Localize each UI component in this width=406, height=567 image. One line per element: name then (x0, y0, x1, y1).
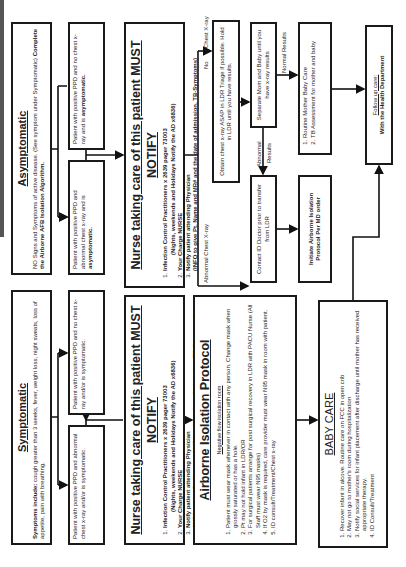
routine-care-list: Routine Mother Baby Care TB Assessment f… (302, 28, 317, 149)
airborne-item: Pt may not hold infant in LDR/OR (240, 301, 248, 528)
obtain-chest-xray-box: Obtain chest x-ray ASAP in LDR Triage if… (212, 20, 240, 183)
symptomatic-body: Symptoms include: cough greater than 3 w… (32, 296, 47, 539)
airborne-item: If O2 by mask is required, care provider… (262, 301, 270, 528)
wire-sym-split (52, 353, 67, 485)
nurse-notify-box-asymptomatic: Nurse taking care of this patient MUST N… (124, 22, 185, 288)
asym-abnormal-bold: asymptomatic. (87, 227, 93, 269)
wire-asym-split (52, 86, 67, 217)
routine-care-box: Routine Mother Baby Care TB Assessment f… (298, 22, 332, 155)
sym-abnormal-box: Patient with positive PPD and abnormal c… (68, 425, 105, 545)
baby-care-title: BABY CARE (323, 306, 337, 542)
symptomatic-box: Symptomatic Symptoms include: cough grea… (11, 290, 52, 545)
baby-care-list: Recover infant in alcove. Routine care o… (339, 306, 377, 542)
nurse-item-text: Notify patient attending Physician (185, 174, 191, 271)
asymptomatic-body: NO Signs and Symptoms of active disease.… (32, 28, 47, 269)
nurse-item-note: (Nights, weekends and Holidays Notify th… (170, 28, 178, 271)
sym-no-cxr-word: symptomatic. (80, 339, 86, 374)
nurse-notify-item: Notify patient attending Physician(INFO … (185, 28, 200, 271)
baby-care-item: Notify social services for infant placem… (354, 306, 369, 531)
nurse-notify-item: Your Charge NURSE (177, 301, 185, 528)
baby-care-item: ID Consult/Treatment (369, 306, 377, 531)
nurse-item-note: (INFO to give Pt. Name and MR# and the d… (192, 28, 200, 271)
abnormal-label: Abnormal (256, 141, 262, 167)
sym-abnormal-text: Patient with positive PPD and abnormal c… (72, 431, 87, 539)
baby-care-item: Recover infant in alcove. Routine care o… (339, 306, 347, 531)
nurse-item-text: Your Charge NURSE (177, 213, 183, 271)
asym-no-cxr-bold: asymptomatic. (80, 74, 86, 116)
nurse-item-text: Infection Control Practitioners x 2639 p… (162, 385, 168, 528)
nurse-notify-title: Nurse taking care of this patient MUST N… (129, 28, 160, 282)
sym-abnormal-word: symptomatic. (80, 448, 86, 483)
nurse-notify-list: Infection Control Practitioners x 2639 p… (162, 28, 200, 282)
no-label: No (203, 61, 209, 69)
airborne-subtitle: Negative flow isolation room (216, 301, 223, 539)
initiate-isolation-box: Initiate Airborne Isolation Protocol Per… (298, 175, 332, 283)
baby-care-box: BABY CARE Recover infant in alcove. Rout… (318, 300, 388, 548)
nurse-item-text: Infection Control Practitioners x 2639 p… (162, 128, 168, 271)
asym-abnormal-box: Patient with positive PPD and abnormal c… (68, 160, 105, 275)
baby-care-item: May not go to mother's room during hospi… (346, 306, 354, 531)
nurse-notify-title: Nurse taking care of this patient MUST N… (129, 301, 160, 539)
rotated-flowchart-page: Asymptomatic NO Signs and Symptoms of ac… (0, 0, 406, 567)
symptomatic-title: Symptomatic (16, 296, 30, 539)
asymptomatic-body-text: NO Signs and Symptoms of active disease.… (32, 56, 38, 269)
symptomatic-body-bold: Symptoms include: (32, 484, 38, 539)
follow-up-care-box: Follow up care: With the Health Departme… (365, 25, 393, 165)
initiate-isolation-text: Initiate Airborne Isolation Protocol Per… (308, 181, 323, 277)
nurse-notify-item: Your Charge NURSE (177, 28, 185, 271)
wire-sym-merge (86, 415, 123, 425)
nurse-item-text: Notify patient attending Physician (185, 431, 191, 528)
abnormal-cxr-label: Abnormal Chest X-ray (203, 224, 209, 283)
airborne-list: Patient must wear mask whenever in conta… (225, 301, 278, 539)
sym-no-cxr-text: Patient with positive PPD and no chest x… (72, 296, 87, 409)
nurse-item-note: (Nights, weekends and Holidays Notify th… (170, 301, 178, 528)
nurse-notify-box-symptomatic: Nurse taking care of this patient MUST N… (124, 295, 185, 545)
asymptomatic-title: Asymptomatic (16, 28, 30, 269)
obtain-chest-xray-text: Obtain chest x-ray ASAP in LDR Triage if… (219, 26, 234, 177)
asym-abnormal-plain: Patient with positive PPD and abnormal c… (72, 190, 86, 269)
separate-mom-baby-text: Separate Mom and Baby until you have x-r… (256, 28, 271, 122)
wire-baby-follow (353, 166, 379, 300)
wire-asym-merge (86, 150, 123, 160)
airborne-item: For surgical patients arrange for post s… (247, 301, 262, 528)
asym-no-cxr-box: Patient with positive PPD and no chest x… (68, 22, 105, 150)
results-label: Results (266, 143, 272, 163)
asym-no-cxr-text: Patient with positive PPD and no chest x… (72, 28, 87, 144)
contact-id-doctor-text: Contact ID Doctor prior to transfer from… (256, 181, 271, 277)
sym-no-cxr-box: Patient with positive PPD and no chest x… (68, 290, 105, 415)
routine-care-item: Routine Mother Baby Care (302, 28, 310, 138)
follow-up-text: With the Health Department (379, 56, 387, 135)
asym-abnormal-text: Patient with positive PPD and abnormal c… (72, 166, 95, 269)
no-cxr-label: Chest X-ray (203, 16, 209, 48)
routine-care-item: TB Assessment for mother and baby (310, 28, 318, 138)
airborne-title: Airborne Isolation Protocol (198, 301, 214, 539)
nurse-notify-item: Infection Control Practitioners x 2639 p… (162, 301, 177, 528)
follow-up-title: Follow up care: (372, 75, 380, 116)
contact-id-doctor-box: Contact ID Doctor prior to transfer from… (250, 175, 277, 283)
nurse-item-text: Your Charge NURSE (177, 470, 183, 528)
normal-results-label: Normal Results (281, 32, 287, 73)
separate-mom-baby-box: Separate Mom and Baby until you have x-r… (250, 22, 277, 128)
asymptomatic-box: Asymptomatic NO Signs and Symptoms of ac… (11, 22, 52, 275)
nurse-notify-item: Infection Control Practitioners x 2639 p… (162, 28, 177, 271)
airborne-isolation-box: Airborne Isolation Protocol Negative flo… (193, 295, 297, 545)
airborne-item: Patient must wear mask whenever in conta… (225, 301, 240, 528)
airborne-item: ID consult/Treatment/Chest x-ray (270, 301, 278, 528)
